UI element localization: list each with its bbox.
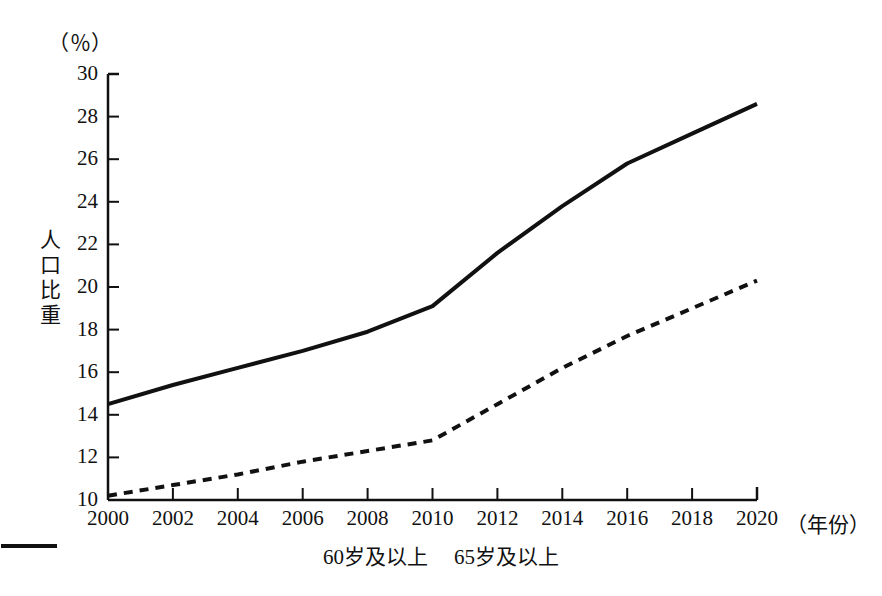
series-line-60-plus	[108, 104, 757, 404]
data-series	[108, 104, 757, 496]
legend-item-65-plus: 65岁及以上	[454, 540, 559, 570]
plot-area	[0, 0, 882, 596]
legend-swatch-dashed	[0, 540, 58, 552]
legend-item-60-plus: 60岁及以上	[323, 540, 428, 570]
axes	[108, 74, 757, 500]
chart-legend: 60岁及以上 65岁及以上	[0, 540, 882, 570]
legend-label-65-plus: 65岁及以上	[454, 540, 559, 570]
population-age-share-line-chart: （％） 人 口 比 重 1012141618202224262830 20002…	[0, 0, 882, 596]
series-line-65-plus	[108, 281, 757, 496]
legend-label-60-plus: 60岁及以上	[323, 540, 428, 570]
